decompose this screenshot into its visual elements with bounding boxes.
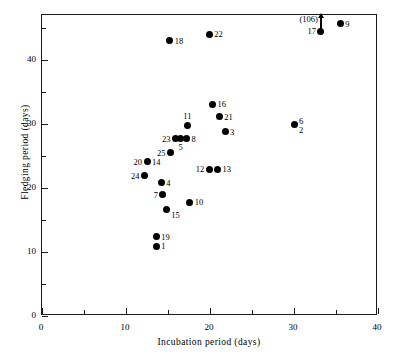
data-point-label: 16 [218,100,227,109]
data-point-label: 18 [175,36,184,45]
data-point-label: 17 [307,27,316,36]
data-point-marker [216,113,223,120]
x-tick-major [42,308,43,314]
y-tick-label: 10 [14,246,36,256]
y-tick-label: 0 [14,310,36,320]
plot-area: 1191571042420141213252358113211662182217… [41,14,377,315]
x-tick-major [294,308,295,314]
data-point-marker [166,37,173,44]
data-point-marker [158,179,165,186]
y-tick-minor [42,28,46,29]
data-point-marker [159,191,166,198]
data-point-marker [222,128,229,135]
y-tick-minor [42,220,46,221]
data-point-label: 10 [195,198,204,207]
data-point-marker [291,121,298,128]
y-tick-label: 40 [14,54,36,64]
data-point-label: 3 [230,127,234,136]
x-tick-label: 20 [194,322,224,332]
data-point-label: 24 [131,171,140,180]
x-axis-title: Incubation period (days) [41,337,377,347]
data-point-marker [317,28,324,35]
data-point-label: 22 [214,30,223,39]
y-tick-minor [42,284,46,285]
x-tick-minor [336,310,337,314]
data-point-label: 9 [345,19,349,28]
y-tick-major [42,60,48,61]
data-point-label: 5 [178,143,182,152]
data-point-marker [209,101,216,108]
y-tick-major [42,252,48,253]
y-tick-minor [42,156,46,157]
y-tick-major [42,316,48,317]
x-tick-label: 10 [110,322,140,332]
data-point-marker [214,166,221,173]
x-tick-label: 0 [26,322,56,332]
off-scale-value-label: (106) [299,15,317,24]
data-point-marker [183,135,190,142]
data-point-label: 13 [223,165,232,174]
arrow-head [318,13,324,18]
data-point-marker [163,206,170,213]
data-point-marker [206,166,213,173]
y-tick-major [42,188,48,189]
y-tick-major [42,124,48,125]
data-point-marker [186,199,193,206]
x-tick-label: 40 [362,322,392,332]
x-tick-minor [84,310,85,314]
data-point-marker [337,20,344,27]
y-axis-title: Fledging period (days) [20,72,30,232]
data-point-marker [167,149,174,156]
data-point-label: 1 [161,242,165,251]
data-point-label: 2 [299,125,303,134]
data-point-label: 21 [224,112,233,121]
data-point-marker [141,172,148,179]
data-point-label: 8 [191,134,195,143]
x-tick-major [126,308,127,314]
x-tick-minor [252,310,253,314]
data-point-marker [184,122,191,129]
data-point-label: 25 [157,148,166,157]
y-tick-minor [42,92,46,93]
data-point-label: 7 [154,190,158,199]
x-tick-major [378,308,379,314]
data-point-marker [206,31,213,38]
data-point-label: 11 [183,112,191,121]
x-tick-label: 30 [278,322,308,332]
data-point-marker [153,243,160,250]
data-point-label: 19 [161,232,170,241]
x-tick-minor [168,310,169,314]
arrow-shaft [320,17,322,28]
data-point-marker [153,233,160,240]
scatter-plot-figure: 1191571042420141213252358113211662182217… [0,0,398,361]
data-point-label: 14 [152,157,161,166]
x-tick-major [210,308,211,314]
data-point-label: 20 [134,157,143,166]
data-point-label: 15 [171,210,180,219]
data-point-label: 12 [196,165,205,174]
data-point-marker [144,158,151,165]
data-point-label: 4 [166,178,170,187]
data-point-label: 23 [162,134,171,143]
